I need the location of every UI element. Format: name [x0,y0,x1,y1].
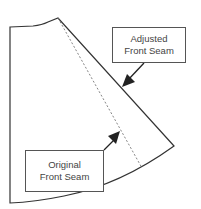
original-label-line2: Front Seam [40,171,90,183]
adjusted-arrow-icon [122,63,144,87]
original-front-seam-label: Original Front Seam [25,150,104,192]
adjusted-front-seam-label: Adjusted Front Seam [112,27,186,63]
adjusted-label-line1: Adjusted [131,33,168,45]
original-label-line1: Original [48,159,81,171]
adjusted-label-line2: Front Seam [124,45,174,57]
